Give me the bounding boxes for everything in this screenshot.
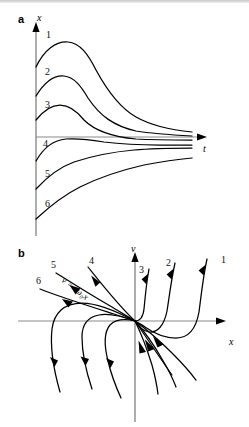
panel-b-vertical-axis-arrowhead [131, 252, 138, 262]
panel-a-curve-6 [36, 158, 192, 219]
panel-a-curve-label-6: 6 [45, 198, 50, 209]
panel-b-trajectory-inner-left-loop-arrowhead [106, 358, 114, 368]
panel-a-curve-2 [36, 76, 192, 136]
panel-b-curve-label-6: 6 [36, 275, 41, 286]
panel-b-horizontal-axis-arrowhead [216, 317, 226, 324]
panel-a-plot [0, 0, 249, 240]
figure-container: a x t 1 2 3 4 5 6 b v x [0, 0, 249, 427]
panel-b-curve-label-3: 3 [139, 264, 144, 275]
panel-b-curve-label-5: 5 [51, 259, 56, 270]
panel-b-plot [0, 237, 249, 427]
panel-a-vertical-axis-arrowhead [32, 22, 39, 32]
panel-a-horizontal-axis-arrowhead [197, 133, 207, 140]
panel-a-curve-4 [36, 139, 192, 161]
panel-b-curve-label-1: 1 [221, 254, 226, 265]
panel-a-curve-label-3: 3 [45, 99, 50, 110]
panel-a-curve-label-5: 5 [45, 168, 50, 179]
panel-b-curve-label-4: 4 [89, 255, 94, 266]
panel-b-trajectory-1 [135, 259, 207, 338]
panel-b-trajectory-5-loop [82, 314, 135, 389]
panel-b-curve-label-2: 2 [166, 257, 171, 268]
panel-a-curve-5 [36, 148, 192, 189]
panel-a-curve-label-4: 4 [43, 138, 48, 149]
panel-b-trajectory-inner-left-loop [105, 320, 135, 398]
panel-a-curve-label-2: 2 [45, 66, 50, 77]
panel-b-trajectory-6-loop-arrowhead [50, 357, 58, 367]
panel-a-curve-1 [36, 42, 192, 132]
panel-a-curve-label-1: 1 [46, 29, 51, 40]
